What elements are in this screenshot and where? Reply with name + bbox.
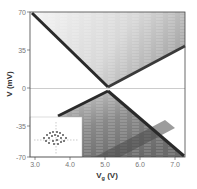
x-axis-label: Vg (V): [96, 171, 118, 181]
x-tick-label: 5.0: [100, 161, 110, 168]
x-tick-label: 6.0: [135, 161, 145, 168]
y-tick-label: 0: [22, 85, 26, 92]
x-tick-label: 4.0: [65, 161, 75, 168]
y-axis-label: V (mV): [5, 71, 14, 97]
y-tick-label: 35: [18, 47, 26, 54]
x-axis: 3.0 4.0 5.0 6.0 7.0 Vg (V): [30, 157, 180, 181]
coulomb-diamond-chart: 70 35 0 -35 -70 V (mV) 3.0 4.0 5.0 6.0 7…: [0, 0, 197, 189]
y-axis: 70 35 0 -35 -70 V (mV): [5, 9, 30, 161]
y-tick-label: -35: [16, 123, 26, 130]
y-tick-label: -70: [16, 154, 26, 161]
inset-schematic: [30, 117, 82, 157]
x-tick-label: 7.0: [170, 161, 180, 168]
y-tick-label: 70: [18, 9, 26, 16]
x-tick-label: 3.0: [30, 161, 40, 168]
